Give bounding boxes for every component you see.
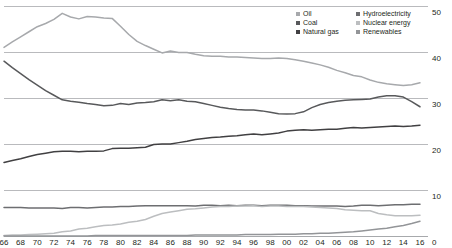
legend-swatch-icon <box>296 30 300 34</box>
x-tick-label: 80 <box>112 238 128 247</box>
x-tick-label: 04 <box>312 238 328 247</box>
x-tick-label: 88 <box>179 238 195 247</box>
plot-area <box>0 0 452 248</box>
x-tick-label: 68 <box>13 238 29 247</box>
x-tick-label: 06 <box>329 238 345 247</box>
legend-label: Coal <box>303 18 317 27</box>
legend-label: Renewables <box>363 27 402 36</box>
legend-swatch-icon <box>356 30 360 34</box>
x-tick-label: 14 <box>395 238 411 247</box>
x-tick-label: 12 <box>379 238 395 247</box>
legend-label: Natural gas <box>303 27 339 36</box>
x-tick-label: 74 <box>63 238 79 247</box>
x-tick-label: 96 <box>246 238 262 247</box>
y-tick-label: 10 <box>432 192 441 201</box>
x-tick-label: 70 <box>29 238 45 247</box>
legend-item-renewables: Renewables <box>356 27 420 36</box>
series-line-renewables <box>4 221 420 236</box>
y-tick-label: 20 <box>432 146 441 155</box>
x-tick-label: 92 <box>212 238 228 247</box>
x-tick-label: 02 <box>296 238 312 247</box>
series-line-coal <box>4 61 420 114</box>
y-tick-label: 50 <box>432 8 441 17</box>
legend-swatch-icon <box>296 21 300 25</box>
y-tick-label: 40 <box>432 54 441 63</box>
legend-swatch-icon <box>296 12 300 16</box>
x-tick-label: 00 <box>279 238 295 247</box>
x-tick-label: 94 <box>229 238 245 247</box>
legend-label: Nuclear energy <box>363 18 410 27</box>
x-tick-label: 16 <box>412 238 428 247</box>
energy-share-line-chart: 50403020100 6668707274767880828486889092… <box>0 0 452 248</box>
legend-swatch-icon <box>356 21 360 25</box>
x-tick-label: 66 <box>0 238 12 247</box>
gridlines <box>4 7 428 237</box>
x-tick-label: 78 <box>96 238 112 247</box>
legend-item-coal: Coal <box>296 18 354 27</box>
x-tick-label: 86 <box>162 238 178 247</box>
legend-item-hydroelectricity: Hydroelectricity <box>356 9 420 18</box>
legend-label: Hydroelectricity <box>363 9 411 18</box>
legend-item-nuclear-energy: Nuclear energy <box>356 18 420 27</box>
y-tick-label: 30 <box>432 100 441 109</box>
series-lines <box>4 13 420 236</box>
chart-legend: OilCoalNatural gasHydroelectricityNuclea… <box>296 9 418 36</box>
x-tick-label: 72 <box>46 238 62 247</box>
x-tick-label: 98 <box>262 238 278 247</box>
legend-item-natural-gas: Natural gas <box>296 27 354 36</box>
x-tick-label: 90 <box>196 238 212 247</box>
x-tick-label: 10 <box>362 238 378 247</box>
x-tick-label: 76 <box>79 238 95 247</box>
legend-swatch-icon <box>356 12 360 16</box>
y-tick-label: 0 <box>432 238 437 247</box>
series-line-natural-gas <box>4 125 420 162</box>
x-tick-label: 08 <box>345 238 361 247</box>
legend-label: Oil <box>303 9 312 18</box>
x-tick-label: 82 <box>129 238 145 247</box>
x-tick-label: 84 <box>146 238 162 247</box>
legend-item-oil: Oil <box>296 9 354 18</box>
